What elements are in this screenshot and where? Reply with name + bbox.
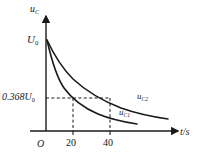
threshold-value-label: 0.368U0	[2, 92, 35, 102]
y-axis-label: uC	[30, 4, 39, 14]
origin-label: O	[37, 139, 44, 149]
x-tick-label-40: 40	[103, 138, 113, 148]
capacitor-discharge-figure: uC U0 0.368U0 O 20 40 t/s uC2 uC1	[0, 0, 207, 165]
curve-label-uc1: uC1	[119, 108, 130, 117]
x-axis-label: t/s	[180, 127, 189, 137]
x-tick-label-20: 20	[66, 138, 76, 148]
curve-uc2	[47, 40, 168, 119]
u0-label: U0	[27, 34, 38, 45]
curve-label-uc2: uC2	[137, 92, 148, 101]
